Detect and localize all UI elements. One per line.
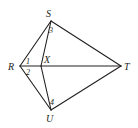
vertex-label-u: U <box>46 113 54 124</box>
segments-group <box>20 21 121 110</box>
vertex-label-x: X <box>43 54 51 65</box>
angle-label-1: 1 <box>26 57 30 66</box>
vertex-label-s: S <box>46 8 51 19</box>
diagram-canvas: S R X T U 1 2 3 4 <box>0 0 138 128</box>
segment-s-t <box>51 21 121 66</box>
segment-t-u <box>51 66 121 110</box>
geometry-figure: S R X T U 1 2 3 4 <box>0 0 138 128</box>
vertex-label-r: R <box>7 61 14 72</box>
angle-label-2: 2 <box>26 68 30 77</box>
vertex-label-t: T <box>124 61 131 72</box>
angle-label-4: 4 <box>50 98 54 107</box>
angle-label-3: 3 <box>48 26 53 35</box>
